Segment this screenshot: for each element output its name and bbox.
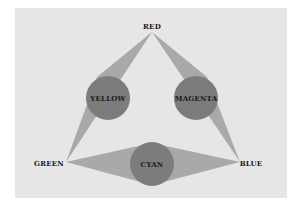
label-green: GREEN bbox=[34, 159, 64, 168]
label-magenta: MAGENTA bbox=[175, 94, 218, 103]
label-blue: BLUE bbox=[240, 159, 263, 168]
color-mixing-diagram: RED GREEN BLUE YELLOW MAGENTA CYAN bbox=[0, 0, 296, 208]
label-red: RED bbox=[143, 22, 161, 31]
label-yellow: YELLOW bbox=[89, 94, 125, 103]
label-cyan: CYAN bbox=[141, 160, 164, 169]
